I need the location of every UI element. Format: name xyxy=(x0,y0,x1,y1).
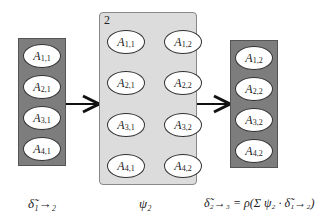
right-column: A1,2 A2,2 A3,2 A4,2 xyxy=(230,40,278,168)
node-a41: A4,1 xyxy=(23,137,61,161)
node-a11: A1,1 xyxy=(23,44,61,68)
left-column: A1,1 A2,1 A3,1 A4,1 xyxy=(18,38,66,166)
node-a21-mid: A2,1 xyxy=(107,71,145,95)
node-a12-mid: A1,2 xyxy=(164,30,202,54)
caption-delta-2-3: δ̃₂→₃ = ρ(Σ ψ₂ · δ̃₁→₂) xyxy=(204,196,314,211)
node-a22-mid: A2,2 xyxy=(164,71,202,95)
caption-psi-2: ψ₂ xyxy=(139,196,152,212)
caption-delta-1-2: δ̃₁→₂ xyxy=(28,196,56,212)
node-a22: A2,2 xyxy=(235,77,273,101)
node-a32-mid: A3,2 xyxy=(164,113,202,137)
node-a32: A3,2 xyxy=(235,108,273,132)
node-a41-mid: A4,1 xyxy=(107,154,145,178)
node-a42-mid: A4,2 xyxy=(164,154,202,178)
node-a31: A3,1 xyxy=(23,106,61,130)
node-a11-mid: A1,1 xyxy=(107,30,145,54)
plate-number: 2 xyxy=(104,13,110,28)
node-a42: A4,2 xyxy=(235,139,273,163)
node-a12: A1,2 xyxy=(235,46,273,70)
node-a21: A2,1 xyxy=(23,75,61,99)
node-a31-mid: A3,1 xyxy=(107,113,145,137)
